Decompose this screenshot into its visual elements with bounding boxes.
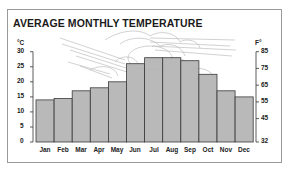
left-tick-20: 20	[17, 78, 24, 85]
bar-feb	[54, 98, 72, 142]
month-label-sep: Sep	[181, 147, 199, 154]
month-label-dec: Dec	[235, 147, 253, 154]
month-label-mar: Mar	[72, 147, 90, 154]
month-label-feb: Feb	[54, 147, 72, 154]
bars	[36, 58, 253, 142]
month-label-may: May	[108, 147, 126, 154]
right-tick-85: 85	[261, 48, 268, 55]
bar-jan	[36, 100, 54, 142]
right-tick-32: 32	[261, 138, 268, 145]
bar-mar	[72, 91, 90, 142]
left-tick-10: 10	[17, 108, 24, 115]
bar-sep	[181, 61, 199, 142]
month-label-aug: Aug	[163, 147, 181, 154]
bar-nov	[217, 91, 235, 142]
right-tick-55: 55	[261, 98, 268, 105]
right-axis	[256, 52, 259, 142]
left-tick-0: 0	[20, 138, 24, 145]
bar-oct	[199, 74, 217, 142]
bar-jun	[127, 64, 145, 142]
bar-may	[108, 82, 126, 142]
left-tick-30: 30	[17, 48, 24, 55]
left-tick-5: 5	[20, 123, 24, 130]
right-tick-45: 45	[261, 115, 268, 122]
month-label-apr: Apr	[90, 147, 108, 154]
bar-aug	[163, 58, 181, 142]
bar-dec	[235, 97, 253, 142]
month-label-oct: Oct	[199, 147, 217, 154]
month-label-jun: Jun	[126, 147, 144, 154]
month-label-jul: Jul	[145, 147, 163, 154]
left-tick-25: 25	[17, 63, 24, 70]
month-label-jan: Jan	[36, 147, 54, 154]
right-tick-75: 75	[261, 65, 268, 72]
bar-apr	[90, 88, 108, 142]
left-axis	[30, 52, 33, 142]
month-label-nov: Nov	[217, 147, 235, 154]
left-tick-15: 15	[17, 93, 24, 100]
bar-jul	[145, 58, 163, 142]
right-tick-65: 65	[261, 82, 268, 89]
